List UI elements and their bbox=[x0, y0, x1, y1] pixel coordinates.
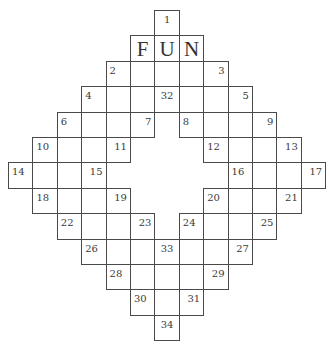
crossword-cell[interactable] bbox=[179, 61, 204, 87]
crossword-cell[interactable]: 2 bbox=[106, 61, 131, 87]
crossword-cell[interactable]: 28 bbox=[106, 264, 131, 290]
clue-number: 11 bbox=[114, 141, 127, 152]
crossword-cell[interactable]: 26 bbox=[81, 239, 106, 265]
clue-number: 4 bbox=[85, 90, 91, 101]
clue-number: 31 bbox=[187, 293, 200, 304]
crossword-cell[interactable] bbox=[154, 61, 179, 87]
cell-letter: F bbox=[131, 36, 154, 60]
crossword-cell[interactable]: 9 bbox=[252, 112, 277, 138]
crossword-cell[interactable]: F bbox=[130, 35, 155, 61]
clue-number: 6 bbox=[61, 116, 67, 127]
crossword-cell[interactable]: N bbox=[179, 35, 204, 61]
crossword-cell[interactable] bbox=[179, 239, 204, 265]
clue-number: 32 bbox=[155, 90, 178, 101]
crossword-cell[interactable] bbox=[179, 264, 204, 290]
crossword-cell[interactable] bbox=[106, 112, 131, 138]
crossword-cell[interactable]: 4 bbox=[81, 86, 106, 112]
crossword-cell[interactable] bbox=[106, 86, 131, 112]
crossword-cell[interactable]: 10 bbox=[32, 137, 57, 163]
clue-number: 26 bbox=[85, 243, 98, 254]
clue-number: 14 bbox=[12, 166, 25, 177]
clue-number: 22 bbox=[61, 217, 74, 228]
crossword-cell[interactable]: 21 bbox=[276, 188, 301, 214]
clue-number: 16 bbox=[232, 166, 245, 177]
clue-number: 9 bbox=[267, 116, 273, 127]
clue-number: 29 bbox=[212, 268, 225, 279]
clue-number: 17 bbox=[309, 166, 322, 177]
crossword-cell[interactable]: 34 bbox=[154, 315, 179, 341]
crossword-cell[interactable] bbox=[228, 112, 253, 138]
clue-number: 34 bbox=[155, 319, 178, 330]
crossword-cell[interactable] bbox=[57, 188, 82, 214]
crossword-cell[interactable] bbox=[154, 289, 179, 315]
crossword-cell[interactable] bbox=[130, 61, 155, 87]
crossword-cell[interactable] bbox=[252, 188, 277, 214]
crossword-cell[interactable]: 6 bbox=[57, 112, 82, 138]
crossword-cell[interactable]: 31 bbox=[179, 289, 204, 315]
crossword-cell[interactable] bbox=[106, 239, 131, 265]
crossword-cell[interactable] bbox=[106, 213, 131, 239]
crossword-cell[interactable] bbox=[81, 112, 106, 138]
clue-number: 13 bbox=[285, 141, 298, 152]
clue-number: 2 bbox=[110, 65, 116, 76]
crossword-cell[interactable] bbox=[81, 188, 106, 214]
crossword-cell[interactable]: 14 bbox=[8, 162, 33, 188]
crossword-cell[interactable] bbox=[203, 239, 228, 265]
clue-number: 8 bbox=[183, 116, 189, 127]
crossword-cell[interactable]: 20 bbox=[203, 188, 228, 214]
clue-number: 33 bbox=[155, 243, 178, 254]
crossword-cell[interactable]: 25 bbox=[252, 213, 277, 239]
cell-letter: U bbox=[155, 36, 178, 60]
crossword-cell[interactable]: 1 bbox=[154, 10, 179, 36]
crossword-cell[interactable]: 8 bbox=[179, 112, 204, 138]
crossword-cell[interactable]: 11 bbox=[106, 137, 131, 163]
crossword-cell[interactable]: 12 bbox=[203, 137, 228, 163]
crossword-cell[interactable] bbox=[228, 213, 253, 239]
clue-number: 15 bbox=[90, 166, 103, 177]
crossword-cell[interactable] bbox=[130, 239, 155, 265]
crossword-cell[interactable]: 32 bbox=[154, 86, 179, 112]
crossword-cell[interactable] bbox=[81, 213, 106, 239]
crossword-cell[interactable] bbox=[228, 188, 253, 214]
clue-number: 24 bbox=[183, 217, 196, 228]
clue-number: 5 bbox=[243, 90, 249, 101]
clue-number: 18 bbox=[36, 192, 49, 203]
crossword-cell[interactable]: 13 bbox=[276, 137, 301, 163]
crossword-cell[interactable]: U bbox=[154, 35, 179, 61]
crossword-cell[interactable] bbox=[179, 86, 204, 112]
clue-number: 19 bbox=[114, 192, 127, 203]
crossword-cell[interactable]: 24 bbox=[179, 213, 204, 239]
crossword-cell[interactable] bbox=[203, 112, 228, 138]
crossword-cell[interactable] bbox=[203, 86, 228, 112]
crossword-cell[interactable] bbox=[203, 213, 228, 239]
crossword-cell[interactable] bbox=[130, 86, 155, 112]
crossword-cell[interactable]: 18 bbox=[32, 188, 57, 214]
crossword-cell[interactable]: 30 bbox=[130, 289, 155, 315]
crossword-cell[interactable]: 7 bbox=[130, 112, 155, 138]
clue-number: 27 bbox=[236, 243, 249, 254]
crossword-cell[interactable]: 16 bbox=[228, 162, 253, 188]
crossword-cell[interactable]: 17 bbox=[301, 162, 326, 188]
crossword-cell[interactable]: 23 bbox=[130, 213, 155, 239]
crossword-cell[interactable] bbox=[57, 162, 82, 188]
crossword-cell[interactable] bbox=[32, 162, 57, 188]
crossword-cell[interactable] bbox=[276, 162, 301, 188]
crossword-cell[interactable] bbox=[228, 137, 253, 163]
crossword-cell[interactable]: 27 bbox=[228, 239, 253, 265]
crossword-cell[interactable] bbox=[57, 137, 82, 163]
crossword-cell[interactable] bbox=[81, 137, 106, 163]
crossword-cell[interactable]: 33 bbox=[154, 239, 179, 265]
crossword-cell[interactable]: 3 bbox=[203, 61, 228, 87]
crossword-cell[interactable] bbox=[252, 162, 277, 188]
crossword-cell[interactable]: 5 bbox=[228, 86, 253, 112]
crossword-cell[interactable] bbox=[154, 264, 179, 290]
clue-number: 3 bbox=[218, 65, 224, 76]
crossword-cell[interactable]: 19 bbox=[106, 188, 131, 214]
crossword-cell[interactable] bbox=[130, 264, 155, 290]
crossword-cell[interactable]: 15 bbox=[81, 162, 106, 188]
cell-letter: N bbox=[180, 36, 203, 60]
clue-number: 12 bbox=[207, 141, 220, 152]
crossword-cell[interactable]: 22 bbox=[57, 213, 82, 239]
crossword-cell[interactable]: 29 bbox=[203, 264, 228, 290]
crossword-cell[interactable] bbox=[252, 137, 277, 163]
